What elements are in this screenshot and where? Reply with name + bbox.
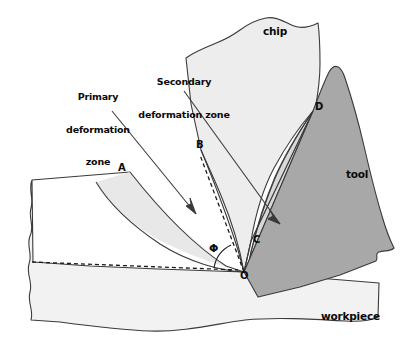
point-label-D: D (315, 101, 323, 113)
primary-label-line-2: deformation (58, 125, 138, 136)
primary-callout-arrowhead (186, 198, 196, 214)
point-label-A: A (118, 162, 126, 174)
point-label-O: O (240, 270, 248, 282)
chip-label: chip (263, 25, 287, 37)
secondary-label-line-1: Secondary (134, 77, 234, 88)
secondary-label-line-2: deformation zone (134, 110, 234, 121)
primary-label-line-1: Primary (58, 92, 138, 103)
point-label-B: B (196, 139, 203, 151)
workpiece-label: workpiece (321, 310, 380, 322)
tool-label: tool (346, 168, 368, 180)
secondary-deformation-zone-label: Secondary deformation zone (134, 55, 234, 142)
shear-angle-label-phi: Φ (209, 243, 218, 256)
primary-label-line-3: zone (58, 157, 138, 168)
primary-deformation-zone-label: Primary deformation zone (58, 70, 138, 190)
point-label-C: C (253, 234, 260, 246)
cutting-process-diagram: Primary deformation zone Secondary defor… (0, 0, 408, 348)
